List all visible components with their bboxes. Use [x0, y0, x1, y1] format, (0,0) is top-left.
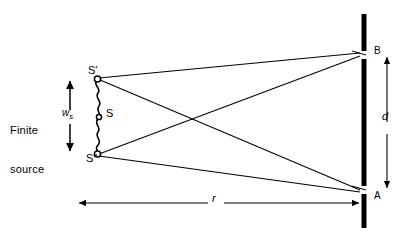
source-width-label: ws — [62, 107, 73, 122]
ray-bundle — [99, 53, 360, 192]
barrier-segment-lower — [362, 194, 367, 228]
separation-label: d — [382, 110, 388, 123]
optics-finite-source-diagram: Finite source ws S′ S S″ B A d r — [0, 0, 406, 242]
diagram-canvas — [0, 0, 406, 242]
barrier-screen — [362, 14, 367, 228]
source-marker-s — [96, 114, 101, 119]
point-a-label: A — [374, 190, 381, 202]
ray-s-double-prime-to-b — [99, 56, 360, 154]
ray-s-prime-to-b — [99, 53, 360, 78]
source-bottom-label: S″ — [86, 152, 97, 165]
barrier-segment-middle — [362, 59, 367, 186]
source-top-label: S′ — [88, 64, 97, 77]
ray-s-double-prime-to-a — [99, 156, 360, 192]
source-width-subscript: s — [69, 112, 73, 121]
finite-source-label: Finite source — [10, 98, 44, 202]
finite-source-label-line1: Finite — [10, 124, 44, 137]
source-center-label: S — [106, 107, 113, 120]
ray-s-prime-to-a — [99, 80, 360, 191]
finite-source-label-line2: source — [10, 163, 44, 176]
barrier-segment-upper — [362, 14, 367, 51]
point-b-label: B — [374, 45, 381, 57]
distance-label: r — [212, 192, 216, 205]
finite-source-wave — [94, 76, 101, 157]
pointer-b — [352, 51, 366, 55]
